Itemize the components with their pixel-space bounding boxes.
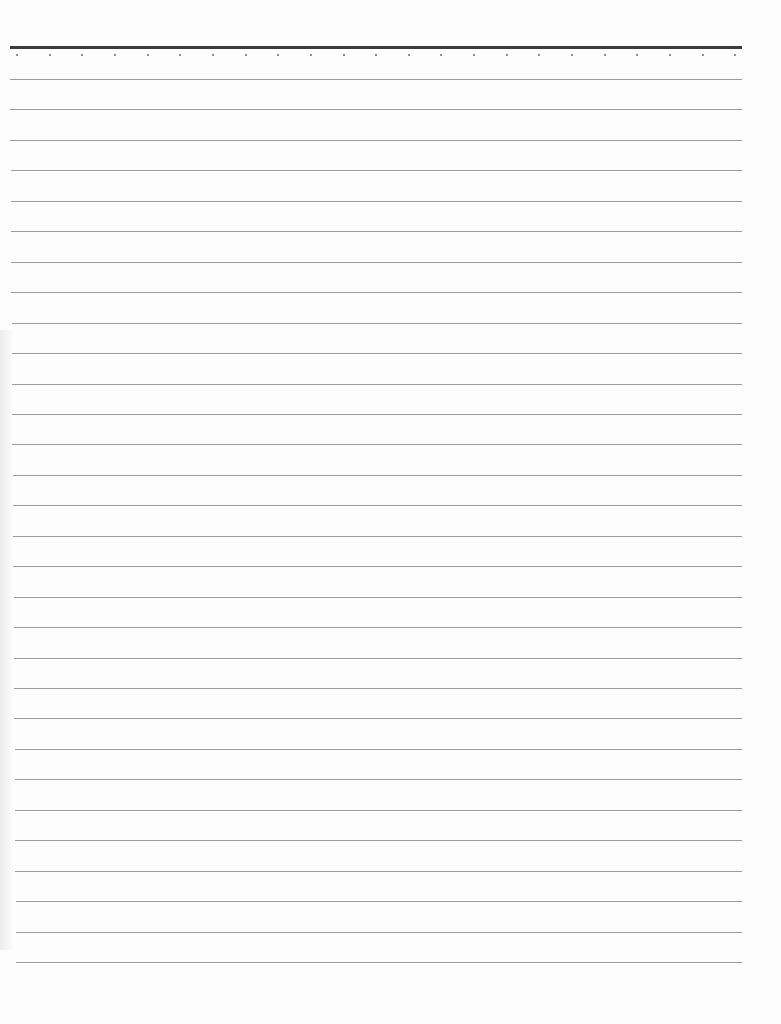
ruled-line (12, 444, 742, 445)
scan-edge-shadow (0, 330, 14, 950)
ruled-line (16, 962, 742, 963)
header-dot (669, 54, 671, 56)
header-dot (343, 54, 345, 56)
header-dot (114, 54, 116, 56)
ruled-line (12, 353, 742, 354)
header-dot (212, 54, 214, 56)
header-dot (245, 54, 247, 56)
ruled-line (16, 932, 742, 933)
header-dot (147, 54, 149, 56)
header-dot (375, 54, 377, 56)
header-dot (440, 54, 442, 56)
header-dot (179, 54, 181, 56)
ruled-line (12, 323, 742, 324)
ruled-line (15, 810, 742, 811)
ruled-line (10, 79, 742, 80)
header-dot (81, 54, 83, 56)
ruled-line (11, 292, 742, 293)
ruled-line (12, 414, 742, 415)
ruled-line (10, 140, 742, 141)
ruled-line (14, 627, 742, 628)
header-dot (702, 54, 704, 56)
header-dot (310, 54, 312, 56)
header-dot (538, 54, 540, 56)
ruled-line (10, 109, 742, 110)
header-dot (49, 54, 51, 56)
ruled-line (15, 749, 742, 750)
ruled-line (11, 201, 742, 202)
ruled-line (11, 170, 742, 171)
ruled-line (13, 505, 742, 506)
header-dot (408, 54, 410, 56)
ruled-line (11, 262, 742, 263)
ruled-line (14, 688, 742, 689)
header-dot (277, 54, 279, 56)
ruled-line (14, 597, 742, 598)
ruled-line (14, 658, 742, 659)
header-rule (10, 46, 742, 49)
ruled-line (12, 384, 742, 385)
ruled-line (15, 840, 742, 841)
ruled-line (16, 901, 742, 902)
lined-paper-sheet (0, 0, 781, 1024)
header-dot (604, 54, 606, 56)
header-dot (16, 54, 18, 56)
header-dot (636, 54, 638, 56)
ruled-line (13, 475, 742, 476)
ruled-line (13, 566, 742, 567)
header-dot (506, 54, 508, 56)
ruled-line (11, 231, 742, 232)
ruled-line (13, 536, 742, 537)
header-dot (734, 54, 736, 56)
ruled-line (15, 871, 742, 872)
header-dot (473, 54, 475, 56)
ruled-line (14, 718, 742, 719)
header-dot (571, 54, 573, 56)
ruled-line (15, 779, 742, 780)
